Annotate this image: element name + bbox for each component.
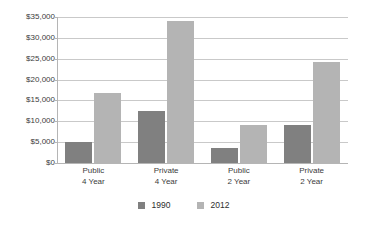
category-label-line1: Private xyxy=(299,166,324,175)
legend-swatch-icon xyxy=(197,202,204,209)
y-axis-tick-label: $5,000 xyxy=(3,138,55,146)
x-axis-category-labels: Public4 YearPrivate4 YearPublic2 YearPri… xyxy=(57,166,348,194)
bar-2012-public-4-year xyxy=(94,93,121,163)
category-label-line1: Private xyxy=(154,166,179,175)
category-label-line1: Public xyxy=(82,166,104,175)
bar-2012-public-2-year xyxy=(240,125,267,163)
bar-1990-public-2-year xyxy=(211,148,238,163)
bars-layer xyxy=(57,17,348,163)
bar-1990-private-2-year xyxy=(284,125,311,163)
legend-label: 2012 xyxy=(211,201,230,210)
x-axis-category-label: Public4 Year xyxy=(57,166,130,187)
y-axis-tick-label: $35,000 xyxy=(3,13,55,21)
y-axis-tick-label: $30,000 xyxy=(3,34,55,42)
category-label-line2: 2 Year xyxy=(203,177,276,188)
category-label-line1: Public xyxy=(228,166,250,175)
category-label-line2: 4 Year xyxy=(130,177,203,188)
legend-label: 1990 xyxy=(152,201,171,210)
y-axis-tick-label: $20,000 xyxy=(3,76,55,84)
legend-item-1990: 1990 xyxy=(138,201,171,210)
bar-chart: $0$5,000$10,000$15,000$20,000$25,000$30,… xyxy=(0,0,367,227)
x-axis-category-label: Private4 Year xyxy=(130,166,203,187)
legend-item-2012: 2012 xyxy=(197,201,230,210)
y-axis-tick-label: $25,000 xyxy=(3,55,55,63)
category-label-line2: 2 Year xyxy=(275,177,348,188)
bar-2012-private-2-year xyxy=(313,62,340,163)
x-axis-category-label: Public2 Year xyxy=(203,166,276,187)
bar-2012-private-4-year xyxy=(167,21,194,163)
category-label-line2: 4 Year xyxy=(57,177,130,188)
y-axis-tick-label: $10,000 xyxy=(3,117,55,125)
bar-1990-private-4-year xyxy=(138,111,165,163)
y-axis: $0$5,000$10,000$15,000$20,000$25,000$30,… xyxy=(0,0,55,227)
x-axis-line xyxy=(57,163,348,164)
y-axis-tick-label: $15,000 xyxy=(3,96,55,104)
chart-legend: 19902012 xyxy=(0,198,367,212)
legend-swatch-icon xyxy=(138,202,145,209)
x-axis-category-label: Private2 Year xyxy=(275,166,348,187)
bar-1990-public-4-year xyxy=(65,142,92,163)
y-axis-tick-label: $0 xyxy=(3,159,55,167)
